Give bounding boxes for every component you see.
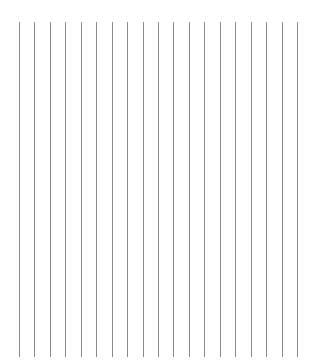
vertical-line <box>235 22 236 357</box>
vertical-line <box>220 22 221 357</box>
vertical-line <box>189 22 190 357</box>
vertical-line <box>173 22 174 357</box>
vertical-line <box>127 22 128 357</box>
vertical-line <box>143 22 144 357</box>
ruled-lines-canvas <box>0 0 312 361</box>
vertical-line <box>204 22 205 357</box>
vertical-line <box>251 22 252 357</box>
vertical-line <box>34 22 35 357</box>
vertical-line <box>65 22 66 357</box>
vertical-line <box>19 22 20 357</box>
vertical-line <box>158 22 159 357</box>
vertical-line <box>282 22 283 357</box>
vertical-line <box>50 22 51 357</box>
vertical-line <box>112 22 113 357</box>
vertical-line <box>297 22 298 357</box>
vertical-line <box>96 22 97 357</box>
vertical-line <box>266 22 267 357</box>
vertical-line <box>81 22 82 357</box>
